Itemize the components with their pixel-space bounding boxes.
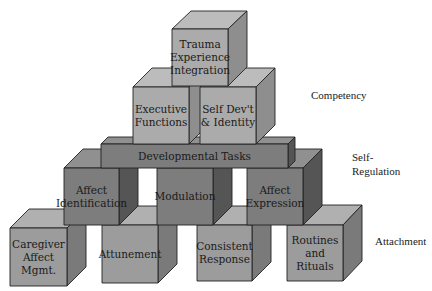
label-selfdev: Self Dev't & Identity <box>198 87 258 144</box>
label-affect-expression: Affect Expression <box>245 168 305 225</box>
label-consistent: Consistent Response <box>195 225 254 281</box>
label-affect-identification: Affect Identification <box>58 168 125 225</box>
tier-label-attachment: Attachment <box>375 234 426 248</box>
label-modulation: Modulation <box>155 168 215 225</box>
tier-label-competency: Competency <box>311 88 367 102</box>
diagram-canvas: Trauma Experience Integration Executive … <box>0 0 432 291</box>
label-devtasks: Developmental Tasks <box>101 144 288 168</box>
label-trauma: Trauma Experience Integration <box>170 29 230 86</box>
tier-label-self-regulation: Self- Regulation <box>352 150 400 178</box>
label-routines: Routines and Rituals <box>285 225 345 281</box>
label-attunement: Attunement <box>100 225 160 283</box>
label-executive: Executive Functions <box>131 87 191 144</box>
label-caregiver: Caregiver Affect Mgmt. <box>8 228 69 286</box>
